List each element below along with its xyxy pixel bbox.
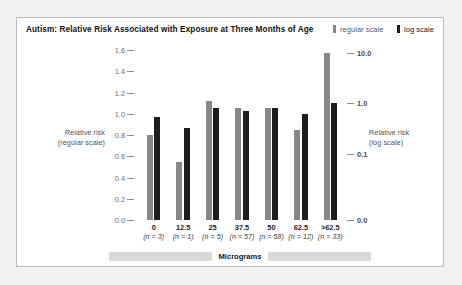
legend-label-log-scale: log scale [404,25,434,34]
bar-group [235,50,249,220]
y-axis-left-tick-mark [127,71,134,72]
y-axis-right-tick-label: 10.0 [357,49,391,58]
y-axis-left-tick-label: 0.6 [95,152,125,161]
x-axis-tick-count: (n = 58) [259,232,284,241]
bar-regular-scale[interactable] [235,108,241,220]
bar-swatch-icon [397,25,401,33]
y-axis-left-tick-mark [127,199,134,200]
y-axis-right-tick-mark [347,53,354,54]
x-axis-band: Micrograms [109,252,371,261]
x-axis-tick-value: 0 [143,223,164,232]
bar-regular-scale[interactable] [176,162,182,220]
x-axis-tick-value: 50 [259,223,284,232]
bar-regular-scale[interactable] [265,108,271,220]
y-axis-left-ticks [127,50,135,220]
y-axis-right-labels: 0.00.11.010.0 [357,50,391,220]
y-axis-left-tick-mark [127,50,134,51]
x-axis-tick-count: (n = 57) [230,232,255,241]
y-axis-left-tick-label: 1.6 [95,46,125,55]
y-axis-left-tick-mark [127,178,134,179]
chart-legend: regular scale log scale [333,25,434,34]
x-axis-tick-value: 37.5 [230,223,255,232]
bar-group [206,50,220,220]
y-axis-left-tick-label: 1.2 [95,88,125,97]
bar-regular-scale[interactable] [294,130,300,220]
x-axis-tick-count: (n = 12) [288,232,313,241]
x-axis-labels: 0(n = 3)12.5(n = 1)25(n = 5)37.5(n = 57)… [139,223,345,249]
y-axis-left-tick-label: 0.0 [95,216,125,225]
chart-card: Autism: Relative Risk Associated with Ex… [16,17,444,267]
y-axis-left-tick-mark [127,220,134,221]
x-axis-tick-count: (n = 3) [143,232,164,241]
y-axis-right-ticks [347,50,355,220]
y-axis-right-tick-label: 0.1 [357,150,391,159]
y-axis-left-tick-mark [127,156,134,157]
y-axis-right-tick-mark [347,154,354,155]
bar-regular-scale[interactable] [324,53,330,220]
chart-title: Autism: Relative Risk Associated with Ex… [26,25,313,34]
x-axis-tick-value: 25 [202,223,223,232]
x-axis-tick-value: >62.5 [318,223,343,232]
y-axis-left-tick-mark [127,135,134,136]
bar-log-scale[interactable] [302,114,308,220]
bar-group [176,50,190,220]
x-axis-tick-count: (n = 5) [202,232,223,241]
bar-log-scale[interactable] [213,108,219,220]
y-axis-left-tick-label: 0.4 [95,173,125,182]
bar-group [324,50,338,220]
x-axis-title: Micrograms [212,252,267,261]
y-axis-right-tick-label: 0.0 [357,216,391,225]
x-axis-tick: 0(n = 3) [143,223,164,241]
y-axis-right-tick-label: 1.0 [357,99,391,108]
bar-swatch-icon [333,25,337,33]
bar-log-scale[interactable] [272,108,278,220]
y-axis-left-tick-mark [127,93,134,94]
chart-header: Autism: Relative Risk Associated with Ex… [17,18,443,40]
legend-item-regular-scale: regular scale [333,25,384,34]
y-axis-left-tick-label: 1.4 [95,67,125,76]
x-axis-tick-value: 12.5 [173,223,194,232]
y-axis-left-labels: 0.00.20.40.60.81.01.21.41.6 [95,50,125,220]
y-axis-right-tick-mark [347,103,354,104]
bar-log-scale[interactable] [154,117,160,220]
x-axis-tick: >62.5(n = 33) [318,223,343,241]
y-axis-left-tick-mark [127,114,134,115]
bar-log-scale[interactable] [243,111,249,220]
x-axis-tick: 62.5(n = 12) [288,223,313,241]
y-axis-left-tick-label: 0.8 [95,131,125,140]
bars-plot [139,50,345,220]
y-axis-left-tick-label: 0.2 [95,194,125,203]
bar-group [265,50,279,220]
legend-item-log-scale: log scale [397,25,434,34]
legend-label-regular-scale: regular scale [340,25,383,34]
x-axis-tick: 50(n = 58) [259,223,284,241]
bar-regular-scale[interactable] [147,135,153,220]
bar-log-scale[interactable] [184,128,190,220]
x-axis-tick: 12.5(n = 1) [173,223,194,241]
x-axis-tick-value: 62.5 [288,223,313,232]
x-axis-tick-count: (n = 33) [318,232,343,241]
bar-regular-scale[interactable] [206,101,212,220]
plot-area-wrapper: Relative risk (regular scale) Relative r… [17,40,443,268]
x-axis-tick: 25(n = 5) [202,223,223,241]
bar-group [147,50,161,220]
y-axis-left-tick-label: 1.0 [95,109,125,118]
bar-log-scale[interactable] [331,103,337,220]
x-axis-tick-count: (n = 1) [173,232,194,241]
bar-group [294,50,308,220]
x-axis-tick: 37.5(n = 57) [230,223,255,241]
y-axis-right-tick-mark [347,220,354,221]
